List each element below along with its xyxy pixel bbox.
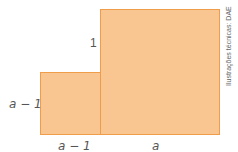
- label-small-width-text: a − 1: [58, 139, 91, 152]
- label-step-height: 1: [90, 37, 97, 49]
- small-square: [40, 72, 102, 135]
- label-small-width: a − 1: [58, 140, 91, 152]
- label-big-width: a: [152, 140, 159, 152]
- label-step-height-text: 1: [90, 36, 97, 50]
- label-small-height-text: a − 1: [9, 97, 42, 111]
- label-small-height: a − 1: [9, 98, 42, 110]
- image-credit: Ilustrações técnicas: DAE: [225, 6, 232, 86]
- label-big-width-text: a: [152, 139, 159, 152]
- big-square: [100, 9, 220, 135]
